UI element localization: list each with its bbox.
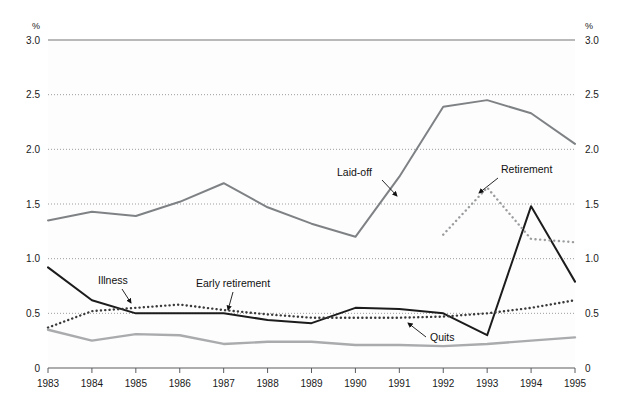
- y-axis-right-tick-label: 0: [585, 363, 591, 374]
- x-axis-tick-label: 1985: [125, 378, 148, 389]
- annotation-label-retirement: Retirement: [501, 163, 552, 175]
- y-axis-right-tick-label: 0.5: [585, 308, 599, 319]
- annotation-label-laid-off: Laid-off: [337, 166, 372, 178]
- x-axis-tick-label: 1995: [564, 378, 587, 389]
- y-axis-right-unit: %: [585, 21, 593, 31]
- y-axis-left-unit: %: [32, 21, 40, 31]
- y-axis-left-tick-label: 1.5: [26, 199, 40, 210]
- annotation-label-quits: Quits: [430, 331, 455, 343]
- x-axis-tick-label: 1984: [81, 378, 104, 389]
- x-axis-tick-label: 1992: [432, 378, 455, 389]
- line-chart-svg: 00.51.01.52.02.53.0% 00.51.01.52.02.53.0…: [0, 0, 623, 406]
- y-axis-left-tick-label: 2.0: [26, 144, 40, 155]
- x-axis-tick-label: 1993: [476, 378, 499, 389]
- x-axis-tick-label: 1986: [169, 378, 192, 389]
- y-axis-right-tick-label: 2.0: [585, 144, 599, 155]
- x-axis-tick-label: 1990: [344, 378, 367, 389]
- x-axis-tick-label: 1983: [37, 378, 60, 389]
- x-axis-tick-label: 1988: [256, 378, 279, 389]
- y-axis-left-tick-label: 0.5: [26, 308, 40, 319]
- y-axis-right-tick-label: 1.5: [585, 199, 599, 210]
- annotation-label-early-retirement: Early retirement: [196, 277, 270, 289]
- x-axis-tick-label: 1987: [213, 378, 236, 389]
- x-axis-tick-label: 1994: [520, 378, 543, 389]
- y-axis-right-tick-label: 1.0: [585, 253, 599, 264]
- y-axis-right-tick-label: 2.5: [585, 89, 599, 100]
- y-axis-left-tick-label: 1.0: [26, 253, 40, 264]
- annotation-label-illness: Illness: [98, 274, 128, 286]
- chart-container: 00.51.01.52.02.53.0% 00.51.01.52.02.53.0…: [0, 0, 623, 406]
- x-axis-tick-label: 1989: [300, 378, 323, 389]
- y-axis-left-tick-label: 2.5: [26, 89, 40, 100]
- y-axis-right-tick-label: 3.0: [585, 35, 599, 46]
- y-axis-left-tick-label: 0: [34, 363, 40, 374]
- x-axis-tick-label: 1991: [388, 378, 411, 389]
- y-axis-left-tick-label: 3.0: [26, 35, 40, 46]
